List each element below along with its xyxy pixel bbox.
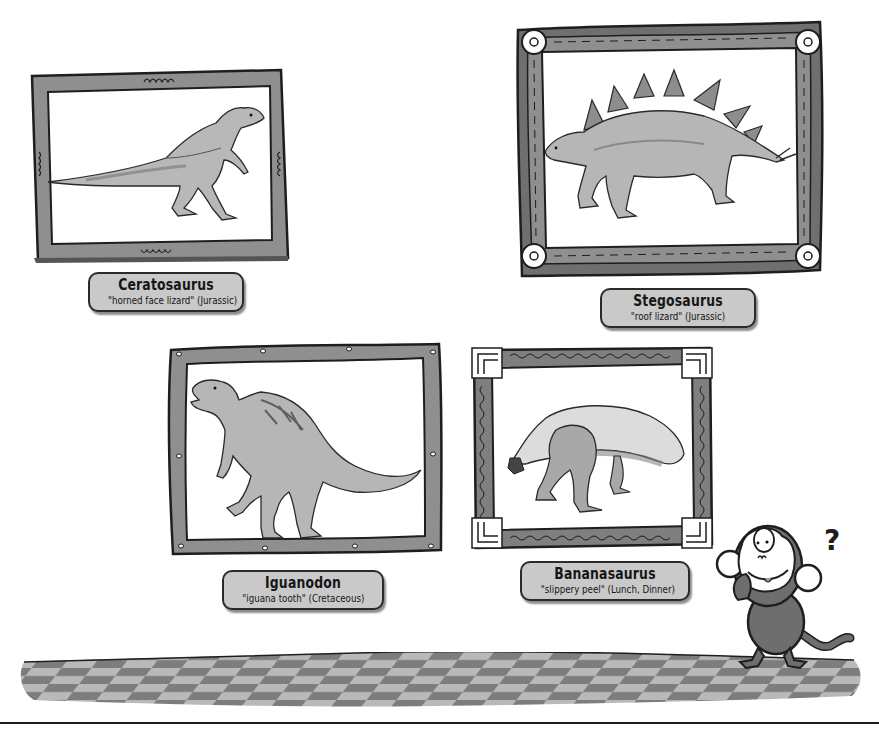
exhibit-description: "slippery peel" (Lunch, Dinner) — [541, 583, 669, 596]
exhibit-description: "roof lizard" (Jurassic) — [620, 310, 736, 323]
exhibit-name: Stegosaurus — [617, 292, 738, 310]
exhibit-frame-iguanodon — [165, 340, 445, 556]
exhibit-label-bananasaurus: Bananasaurus "slippery peel" (Lunch, Din… — [520, 561, 690, 601]
exhibit-label-stegosaurus: Stegosaurus "roof lizard" (Jurassic) — [600, 288, 756, 328]
exhibit-description: "iguana tooth" (Cretaceous) — [242, 592, 363, 605]
exhibit-name: Ceratosaurus — [105, 276, 226, 294]
bananasaurus-painting — [470, 346, 714, 552]
exhibit-label-iguanodon: Iguanodon "iguana tooth" (Cretaceous) — [222, 570, 384, 610]
monkey-icon: ? — [712, 510, 862, 675]
exhibit-name: Bananasaurus — [538, 565, 672, 583]
stegosaurus-painting — [514, 20, 826, 278]
exhibit-description: "horned face lizard" (Jurassic) — [108, 294, 224, 307]
ceratosaurus-painting — [26, 68, 292, 264]
bottom-divider — [0, 722, 879, 724]
exhibit-frame-bananasaurus — [470, 346, 714, 552]
exhibit-frame-ceratosaurus — [26, 68, 292, 264]
exhibit-frame-stegosaurus — [514, 20, 826, 278]
confused-monkey-mascot: ? — [712, 510, 862, 675]
exhibit-name: Iguanodon — [240, 574, 367, 592]
question-mark-icon: ? — [824, 524, 840, 557]
exhibit-label-ceratosaurus: Ceratosaurus "horned face lizard" (Juras… — [88, 272, 244, 312]
iguanodon-painting — [165, 340, 445, 556]
